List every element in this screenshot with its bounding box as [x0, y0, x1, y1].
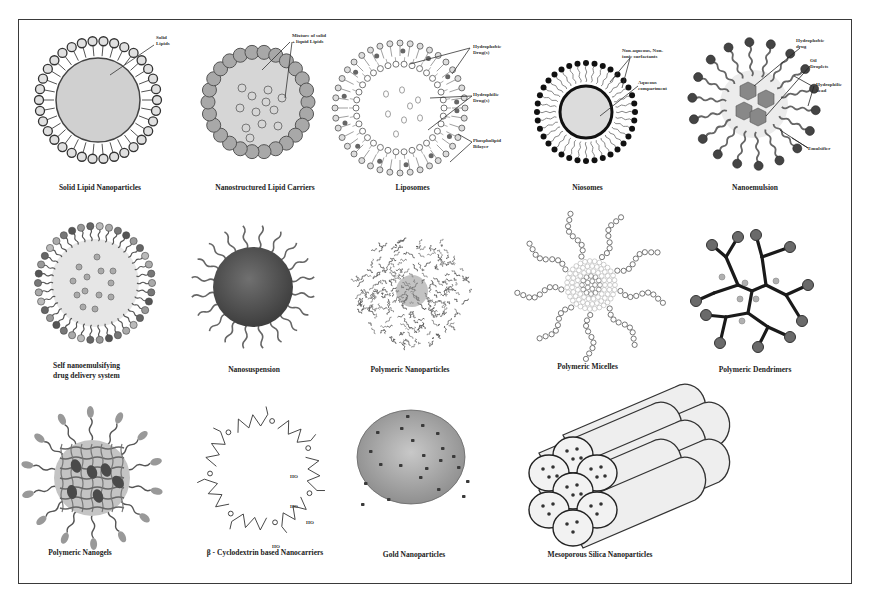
nonionic-surfactants-label: Non-aqueous, Non-ionic surfactants [622, 48, 663, 60]
polymeric-nanoparticle-illustration [340, 215, 490, 380]
snedds-illustration [25, 215, 175, 380]
caption-solid-lipid-nanoparticles: Solid Lipid Nanoparticles [30, 183, 170, 193]
solid-lipid-nanoparticle-panel: SolidLipids Solid Lipid Nanoparticles [30, 30, 180, 195]
hydroxyl-label: HO [290, 474, 298, 480]
solid-lipid-nanoparticle-illustration [30, 30, 180, 195]
hydroxyl-label: HO [306, 520, 314, 526]
nanosuspension-panel: Nanosuspension [190, 215, 330, 380]
polymeric-micelle-panel: Polymeric Micelles [515, 215, 665, 380]
polymeric-dendrimer-illustration [690, 215, 840, 380]
hydrophobic-drug-label: Hydrophobicdrug [796, 38, 824, 50]
oil-droplets-label: OilDroplets [810, 58, 828, 70]
polymeric-micelle-illustration [515, 215, 665, 380]
caption-nanoemulsion: Nanoemulsion [680, 183, 830, 193]
hydrophilic-head-label: Hydrophilichead [816, 82, 842, 94]
hydrophilic-drugs-label: HydrophilicDrug(s) [473, 92, 499, 104]
caption-liposomes: Liposomes [340, 183, 485, 193]
caption-polymeric-micelles: Polymeric Micelles [515, 362, 660, 372]
caption-cyclodextrin-nanocarriers: β - Cyclodextrin based Nanocarriers [190, 548, 340, 558]
polymeric-nanoparticle-panel: Polymeric Nanoparticles [340, 215, 490, 380]
mesoporous-silica-panel: Mesoporous Silica Nanoparticles [515, 400, 715, 565]
nanostructured-lipid-carrier-illustration [190, 30, 340, 195]
caption-mesoporous-silica-nanoparticles: Mesoporous Silica Nanoparticles [515, 550, 685, 560]
caption-snedds: Self nanoemulsifyingdrug delivery system [25, 361, 143, 381]
mixture-lipids-label: Mixture of solid+ liquid Lipids [292, 33, 326, 45]
caption-nanostructured-lipid-carriers: Nanostructured Lipid Carriers [190, 183, 340, 193]
nanoemulsion-panel: Hydrophobicdrug OilDroplets Hydrophilich… [680, 30, 850, 195]
caption-polymeric-nanoparticles: Polymeric Nanoparticles [340, 365, 480, 375]
hydroxyl-label: HO [290, 504, 298, 510]
phospholipid-bilayer-label: PhospholipidBilayer [473, 138, 501, 150]
polymeric-nanogel-panel: Polymeric Nanogels [20, 400, 170, 565]
solid-lipids-label: SolidLipids [156, 35, 170, 47]
mesoporous-silica-illustration [515, 400, 715, 565]
liposome-panel: HydrophobicDrug(s) HydrophilicDrug(s) Ph… [340, 30, 515, 195]
caption-nanosuspension: Nanosuspension [190, 365, 318, 375]
gold-nanoparticle-panel: Gold Nanoparticles [355, 400, 495, 565]
snedds-panel: Self nanoemulsifyingdrug delivery system [25, 215, 175, 380]
aqueous-compartment-label: Aqueouscompartment [638, 80, 667, 92]
caption-gold-nanoparticles: Gold Nanoparticles [355, 550, 473, 560]
polymeric-nanogel-illustration [20, 400, 170, 565]
nanostructured-lipid-carrier-panel: Mixture of solid+ liquid Lipids Nanostru… [190, 30, 340, 195]
cyclodextrin-panel: HO HO HO HO β - Cyclodextrin based Nanoc… [190, 400, 340, 565]
emulsifier-label: Emulsifier [808, 146, 831, 152]
caption-polymeric-dendrimers: Polymeric Dendrimers [690, 365, 820, 375]
caption-niosomes: Niosomes [530, 183, 645, 193]
polymeric-dendrimer-panel: Polymeric Dendrimers [690, 215, 840, 380]
nanoemulsion-illustration [680, 30, 850, 195]
gold-nanoparticle-illustration [355, 400, 495, 565]
cyclodextrin-illustration [190, 400, 340, 565]
caption-polymeric-nanogels: Polymeric Nanogels [20, 548, 140, 558]
nanosuspension-illustration [190, 215, 330, 380]
niosome-panel: Non-aqueous, Non-ionic surfactants Aqueo… [530, 30, 680, 195]
hydrophobic-drugs-label: HydrophobicDrug(s) [473, 44, 501, 56]
